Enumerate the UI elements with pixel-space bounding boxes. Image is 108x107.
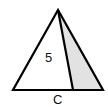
base-label: C — [53, 92, 62, 107]
triangle-diagram: 5 C — [0, 0, 108, 107]
triangle-figure: 5 C — [0, 0, 108, 107]
area-label: 5 — [45, 50, 52, 65]
